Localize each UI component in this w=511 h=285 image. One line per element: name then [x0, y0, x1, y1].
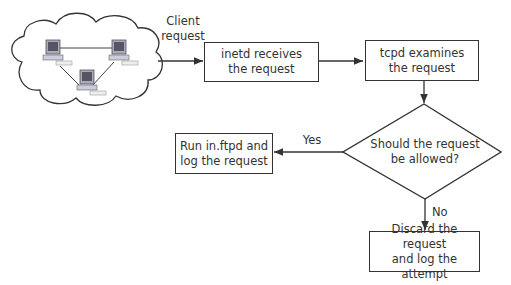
- tcpd-node-line2: the request: [380, 61, 465, 76]
- run-node-line1: Run in.ftpd and: [180, 139, 268, 154]
- tcpd-node: tcpd examines the request: [365, 40, 479, 81]
- client-request-label-line2: request: [160, 29, 206, 44]
- no-label: No: [432, 205, 452, 220]
- discard-node: Discard the request and log the attempt: [369, 231, 480, 272]
- network-cloud-icon: [12, 13, 163, 105]
- yes-label: Yes: [300, 133, 324, 148]
- inetd-node-line1: inetd receives: [221, 47, 302, 62]
- run-node: Run in.ftpd and log the request: [175, 133, 273, 174]
- inetd-node: inetd receives the request: [204, 42, 319, 82]
- client-request-label-line1: Client: [160, 14, 206, 29]
- decision-text-line1: Should the request: [360, 137, 490, 152]
- run-node-line2: log the request: [180, 154, 268, 169]
- discard-node-line2: and log the attempt: [370, 252, 479, 282]
- client-request-label: Client request: [160, 14, 206, 44]
- flowchart-canvas: Client request inetd receives the reques…: [0, 0, 511, 285]
- inetd-node-line2: the request: [221, 62, 302, 77]
- decision-text-line2: be allowed?: [360, 152, 490, 167]
- decision-text: Should the request be allowed?: [360, 137, 490, 167]
- discard-node-line1: Discard the request: [370, 222, 479, 252]
- tcpd-node-line1: tcpd examines: [380, 46, 465, 61]
